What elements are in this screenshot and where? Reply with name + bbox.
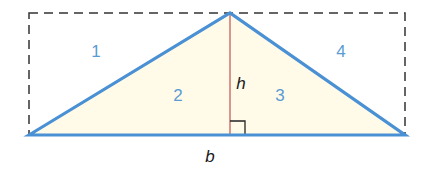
- height-label: h: [236, 74, 245, 93]
- region-label-1: 1: [91, 42, 100, 61]
- triangle-fill: [29, 13, 405, 135]
- region-label-2: 2: [173, 86, 182, 105]
- region-label-4: 4: [336, 42, 345, 61]
- triangle-area-diagram: 1 2 3 4 h b: [0, 0, 422, 169]
- base-label: b: [205, 147, 214, 166]
- region-label-3: 3: [275, 86, 284, 105]
